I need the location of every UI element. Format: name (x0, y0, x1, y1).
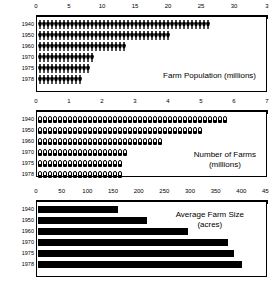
person-icon (90, 53, 94, 62)
plot-area-number-of-farms: Number of Farms (millions) 1940195019601… (36, 111, 267, 177)
axis-tick-label: 400 (232, 188, 250, 195)
axis-tick-label: 7 (258, 98, 269, 105)
chart-panel-average-farm-size: 050100150200250300350400450 Average Farm… (0, 185, 269, 285)
axis-tick-label: 0 (27, 188, 45, 195)
pictogram-strip (38, 64, 96, 73)
row-label-year: 1975 (2, 248, 34, 259)
chart-row: 1950 (37, 125, 266, 136)
chart-row: 1978 (37, 169, 266, 180)
axis-tick-label: 2 (93, 98, 111, 105)
pictogram-strip (38, 137, 169, 146)
barn-icon (198, 126, 203, 135)
person-icon (206, 20, 210, 29)
data-bar (38, 250, 234, 257)
pictogram-strip (38, 75, 90, 84)
chart-row: 1960 (37, 136, 266, 147)
plot-area-farm-population: Farm Population (millions) 1940195019601… (36, 16, 267, 92)
chart-row: 1950 (37, 30, 266, 41)
axis-tick-label: 3 (258, 3, 269, 10)
axis-tick (267, 15, 268, 19)
chart-row: 1960 (37, 41, 266, 52)
pictogram-strip (38, 126, 215, 135)
axis-tick-label: 0 (27, 3, 45, 10)
row-label-year: 1978 (2, 74, 34, 85)
axis-tick-label: 10 (93, 3, 111, 10)
chart-row: 1940 (37, 19, 266, 30)
axis-tick-label: 350 (207, 188, 225, 195)
row-label-year: 1975 (2, 63, 34, 74)
axis-tick-label: 50 (53, 188, 71, 195)
chart-row: 1975 (37, 63, 266, 74)
barn-icon (118, 170, 123, 179)
axis-tick-label: 1 (60, 98, 78, 105)
farm-statistics-figure: 0510152025303 Farm Population (millions)… (0, 0, 269, 285)
row-label-year: 1950 (2, 30, 34, 41)
axis-tick-label: 100 (78, 188, 96, 195)
row-label-year: 1950 (2, 125, 34, 136)
chart-row: 1970 (37, 147, 266, 158)
person-icon (78, 75, 82, 84)
plot-area-average-farm-size: Average Farm Size (acres) 19401950196019… (36, 201, 267, 277)
data-bar (38, 261, 242, 268)
row-label-year: 1940 (2, 114, 34, 125)
pictogram-strip (38, 170, 126, 179)
chart-row: 1975 (37, 248, 266, 259)
chart-panel-farm-population: 0510152025303 Farm Population (millions)… (0, 0, 269, 95)
axis-tick-label: 250 (155, 188, 173, 195)
row-label-year: 1950 (2, 215, 34, 226)
row-label-year: 1940 (2, 19, 34, 30)
axis-tick-label: 6 (225, 98, 243, 105)
person-icon (166, 31, 170, 40)
person-icon (122, 42, 126, 51)
axis-tick-label: 450 (258, 188, 269, 195)
axis-tick (267, 110, 268, 114)
pictogram-strip (38, 20, 238, 29)
axis-tick-label: 5 (192, 98, 210, 105)
axis-tick-label: 15 (126, 3, 144, 10)
data-bar (38, 206, 118, 213)
barn-icon (223, 115, 228, 124)
axis-tick-label: 25 (192, 3, 210, 10)
axis-tick-label: 5 (60, 3, 78, 10)
data-bar (38, 217, 147, 224)
chart-row: 1975 (37, 158, 266, 169)
row-label-year: 1970 (2, 237, 34, 248)
chart-row: 1940 (37, 114, 266, 125)
axis-tick-label: 3 (126, 98, 144, 105)
axis-tick-label: 4 (159, 98, 177, 105)
axis-tick-label: 300 (181, 188, 199, 195)
pictogram-strip (38, 159, 130, 168)
axis-tick-label: 0 (27, 98, 45, 105)
pictogram-strip (38, 115, 238, 124)
chart-row: 1960 (37, 226, 266, 237)
person-icon (86, 64, 90, 73)
row-label-year: 1978 (2, 259, 34, 270)
pictogram-strip (38, 53, 101, 62)
barn-icon (158, 137, 163, 146)
chart-row: 1970 (37, 52, 266, 63)
pictogram-strip (38, 42, 140, 51)
row-label-year: 1960 (2, 41, 34, 52)
axis-tick (267, 200, 268, 204)
axis-tick-label: 30 (225, 3, 243, 10)
axis-tick-label: 150 (104, 188, 122, 195)
pictogram-strip (38, 148, 135, 157)
chart-row: 1978 (37, 259, 266, 270)
row-label-year: 1975 (2, 158, 34, 169)
barn-icon (123, 148, 128, 157)
barn-icon (118, 159, 123, 168)
chart-row: 1940 (37, 204, 266, 215)
row-label-year: 1960 (2, 136, 34, 147)
chart-row: 1970 (37, 237, 266, 248)
row-label-year: 1978 (2, 169, 34, 180)
axis-tick-label: 20 (159, 3, 177, 10)
row-label-year: 1960 (2, 226, 34, 237)
axis-tick-label: 200 (130, 188, 148, 195)
chart-row: 1950 (37, 215, 266, 226)
row-label-year: 1970 (2, 147, 34, 158)
data-bar (38, 239, 228, 246)
chart-panel-number-of-farms: 01234567 Number of Farms (millions) 1940… (0, 95, 269, 185)
row-label-year: 1970 (2, 52, 34, 63)
chart-row: 1978 (37, 74, 266, 85)
row-label-year: 1940 (2, 204, 34, 215)
